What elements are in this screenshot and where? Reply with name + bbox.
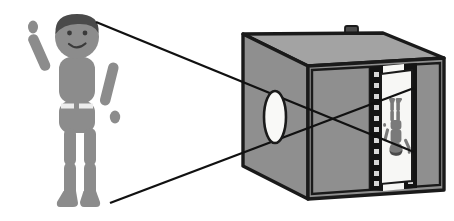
leg-left-thigh bbox=[64, 128, 76, 166]
camera-obscura-diagram: Camera obscura / pinhole camera ray diag… bbox=[0, 0, 454, 221]
lens-aperture[interactable] bbox=[264, 91, 286, 143]
head bbox=[55, 14, 99, 59]
lens-ellipse bbox=[264, 91, 286, 143]
hand-raised-icon bbox=[28, 21, 38, 34]
eye-right-icon bbox=[83, 31, 88, 36]
hand-lowered-icon bbox=[110, 111, 120, 124]
torso bbox=[59, 57, 95, 133]
eye-left-icon bbox=[67, 31, 72, 36]
torso-upper bbox=[59, 57, 95, 103]
belt-right bbox=[79, 104, 93, 109]
leg-right-thigh bbox=[84, 128, 96, 166]
diagram-canvas: Camera obscura / pinhole camera ray diag… bbox=[0, 0, 454, 221]
belt-left bbox=[61, 104, 74, 109]
